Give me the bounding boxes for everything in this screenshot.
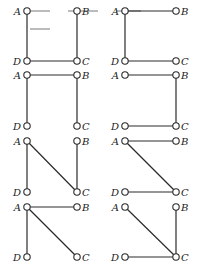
tree-panel-5: ABCD [12, 136, 90, 198]
vertex-a [24, 204, 30, 210]
edge-a-c [125, 141, 176, 192]
vertex-label-c: C [181, 56, 189, 67]
vertex-label-c: C [82, 252, 90, 263]
vertex-label-c: C [82, 187, 90, 198]
vertex-c [74, 189, 80, 195]
vertex-c [173, 58, 179, 64]
edge-a-c [125, 207, 176, 257]
vertex-label-d: D [110, 56, 119, 67]
vertex-a [122, 72, 128, 78]
graph-panels: ABCDABCDABCDABCDABCDABCDABCDABCD [0, 0, 197, 268]
vertex-c [173, 123, 179, 129]
vertex-c [74, 254, 80, 260]
vertex-label-d: D [12, 252, 21, 263]
vertex-a [122, 204, 128, 210]
vertex-b [173, 138, 179, 144]
vertex-label-b: B [81, 70, 89, 81]
vertex-b [74, 72, 80, 78]
vertex-a [24, 72, 30, 78]
vertex-label-a: A [111, 70, 119, 81]
vertex-label-c: C [181, 252, 189, 263]
vertex-b [74, 138, 80, 144]
vertex-label-c: C [181, 187, 189, 198]
vertex-label-b: B [81, 202, 89, 213]
vertex-c [173, 254, 179, 260]
vertex-label-c: C [82, 121, 90, 132]
tree-panel-2: ABCD [110, 6, 189, 67]
vertex-label-b: B [81, 136, 89, 147]
vertex-d [24, 123, 30, 129]
vertex-a [24, 8, 30, 14]
vertex-label-a: A [111, 136, 119, 147]
vertex-a [24, 138, 30, 144]
vertex-label-b: B [180, 202, 188, 213]
vertex-d [122, 189, 128, 195]
tree-panel-6: ABCD [110, 136, 189, 198]
vertex-d [122, 58, 128, 64]
vertex-label-a: A [13, 6, 21, 17]
vertex-a [122, 138, 128, 144]
vertex-d [122, 254, 128, 260]
vertex-label-d: D [12, 121, 21, 132]
vertex-label-a: A [111, 202, 119, 213]
vertex-label-b: B [180, 136, 188, 147]
spanning-trees-diagram: ABCDABCDABCDABCDABCDABCDABCDABCD [0, 0, 197, 268]
vertex-c [173, 189, 179, 195]
vertex-a [122, 8, 128, 14]
vertex-label-d: D [110, 252, 119, 263]
vertex-label-a: A [111, 6, 119, 17]
vertex-label-a: A [13, 136, 21, 147]
vertex-d [24, 189, 30, 195]
tree-panel-1: ABCD [12, 6, 90, 67]
vertex-b [173, 72, 179, 78]
edge-a-c [27, 141, 77, 192]
vertex-label-d: D [110, 121, 119, 132]
vertex-label-d: D [110, 187, 119, 198]
vertex-d [122, 123, 128, 129]
edge-a-c [27, 207, 77, 257]
vertex-label-b: B [180, 70, 188, 81]
vertex-b [74, 204, 80, 210]
tree-panel-8: ABCD [110, 202, 189, 263]
vertex-b [74, 8, 80, 14]
vertex-b [173, 204, 179, 210]
vertex-label-c: C [82, 56, 90, 67]
vertex-d [24, 254, 30, 260]
vertex-label-a: A [13, 70, 21, 81]
vertex-c [74, 123, 80, 129]
vertex-c [74, 58, 80, 64]
vertex-label-b: B [180, 6, 188, 17]
vertex-d [24, 58, 30, 64]
vertex-label-a: A [13, 202, 21, 213]
vertex-label-d: D [12, 187, 21, 198]
vertex-label-c: C [181, 121, 189, 132]
tree-panel-7: ABCD [12, 202, 90, 263]
tree-panel-4: ABCD [110, 70, 189, 132]
tree-panel-3: ABCD [12, 70, 90, 132]
vertex-label-d: D [12, 56, 21, 67]
vertex-b [173, 8, 179, 14]
vertex-label-b: B [81, 6, 89, 17]
